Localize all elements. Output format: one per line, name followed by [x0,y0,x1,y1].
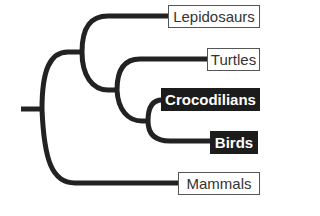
taxon-label-crocodilians: Crocodilians [161,88,260,111]
branch-turtles [117,59,207,90]
branch-birds [148,121,210,141]
branch-lepidosaurs [82,16,168,52]
branch-crocodilians [148,100,162,121]
branch-archelosaurs [82,52,117,90]
taxon-label-birds: Birds [210,131,258,154]
branch-mammals [42,109,178,183]
taxon-label-mammals: Mammals [178,172,260,195]
taxon-label-lepidosaurs: Lepidosaurs [168,5,260,28]
taxon-label-turtles: Turtles [207,48,260,71]
branch-archosaurs [117,90,148,121]
branch-amniote-upper [42,52,82,109]
